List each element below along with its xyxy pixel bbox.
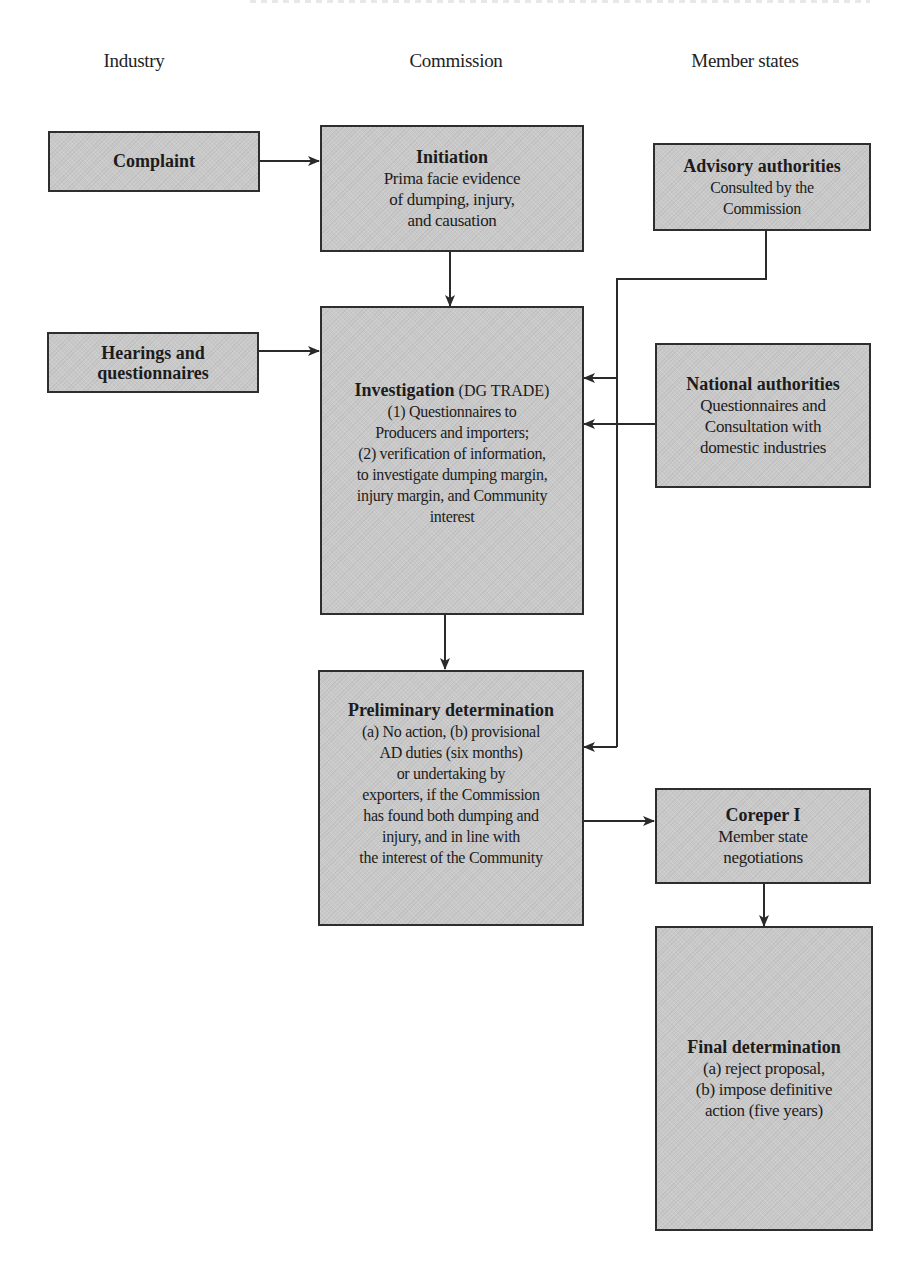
box-investigation: Investigation (DG TRADE) (1) Questionnai… (320, 306, 584, 615)
box-investigation-line: (1) Questionnaires to (388, 401, 517, 422)
box-advisory-title: Advisory authorities (683, 156, 841, 177)
box-hearings-title-line: questionnaires (97, 363, 209, 383)
box-coreper-line: negotiations (723, 847, 803, 868)
box-coreper-i: Coreper I Member state negotiations (655, 788, 871, 884)
box-national-line: domestic industries (700, 437, 826, 458)
box-final-line: (b) impose definitive (696, 1079, 832, 1100)
box-investigation-title-suffix: (DG TRADE) (455, 382, 550, 399)
box-investigation-line: to investigate dumping margin, (357, 464, 548, 485)
box-hearings-questionnaires: Hearings and questionnaires (47, 332, 259, 393)
box-advisory-authorities: Advisory authorities Consulted by the Co… (653, 143, 871, 231)
box-final-title: Final determination (687, 1037, 841, 1058)
box-preliminary-line: or undertaking by (397, 763, 506, 784)
box-investigation-title: Investigation (DG TRADE) (355, 380, 550, 401)
box-preliminary-determination: Preliminary determination (a) No action,… (318, 670, 584, 926)
box-initiation: Initiation Prima facie evidence of dumpi… (320, 125, 584, 252)
box-investigation-line: (2) verification of information, (358, 443, 546, 464)
box-investigation-line: Producers and importers; (375, 422, 529, 443)
box-advisory-line: Commission (723, 198, 801, 219)
box-final-line: action (five years) (705, 1100, 823, 1121)
box-investigation-line: injury margin, and Community (357, 485, 547, 506)
box-initiation-line: Prima facie evidence (384, 168, 521, 189)
box-preliminary-line: injury, and in line with (382, 826, 520, 847)
box-initiation-line: and causation (407, 210, 496, 231)
box-preliminary-title: Preliminary determination (348, 700, 554, 721)
box-complaint: Complaint (48, 131, 260, 192)
column-label-commission: Commission (409, 50, 502, 72)
edge-advisory-trunk (617, 230, 766, 747)
box-investigation-title-main: Investigation (355, 380, 455, 400)
column-label-member-states: Member states (691, 50, 798, 72)
box-initiation-line: of dumping, injury, (389, 189, 514, 210)
cropped-header-fragment (250, 0, 870, 3)
box-national-authorities: National authorities Questionnaires and … (655, 343, 871, 488)
column-label-industry: Industry (104, 50, 165, 72)
box-preliminary-line: (a) No action, (b) provisional (362, 721, 540, 742)
box-final-line: (a) reject proposal, (703, 1058, 825, 1079)
box-complaint-title: Complaint (113, 151, 195, 172)
box-coreper-line: Member state (718, 826, 807, 847)
box-national-title: National authorities (686, 374, 840, 395)
box-preliminary-line: AD duties (six months) (379, 742, 522, 763)
box-coreper-title: Coreper I (726, 805, 801, 826)
box-preliminary-line: the interest of the Community (359, 847, 542, 868)
box-preliminary-line: has found both dumping and (363, 805, 538, 826)
box-final-determination: Final determination (a) reject proposal,… (655, 926, 873, 1231)
box-advisory-line: Consulted by the (710, 177, 814, 198)
box-national-line: Questionnaires and (700, 395, 825, 416)
box-initiation-title: Initiation (416, 147, 488, 168)
box-hearings-title-line: Hearings and (101, 343, 205, 363)
box-national-line: Consultation with (705, 416, 821, 437)
box-investigation-line: interest (430, 506, 475, 527)
box-preliminary-line: exporters, if the Commission (362, 784, 539, 805)
